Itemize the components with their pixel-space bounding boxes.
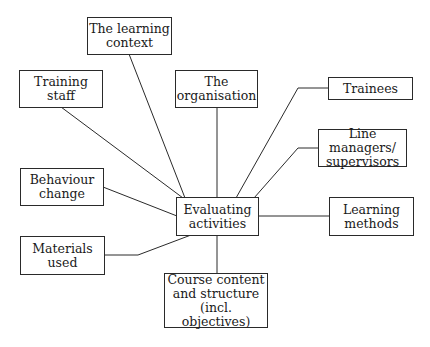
- node-label: Behaviour change: [30, 173, 95, 201]
- node-trainees: Trainees: [328, 77, 413, 100]
- node-materials-used: Materials used: [20, 236, 105, 275]
- node-learning-methods: Learning methods: [329, 197, 414, 236]
- node-line-managers: Line managers/ supervisors: [318, 129, 407, 167]
- edge-materials-used: [104, 235, 191, 255]
- node-course-content: Course content and structure (incl. obje…: [164, 273, 268, 328]
- node-label: The organisation: [177, 75, 256, 103]
- edge-behaviour-change: [103, 187, 177, 216]
- node-label: Trainees: [343, 82, 398, 96]
- node-label: Course content and structure (incl. obje…: [165, 273, 267, 329]
- node-training-staff: Training staff: [19, 70, 103, 108]
- node-evaluating-activities: Evaluating activities: [176, 197, 259, 236]
- node-label: Line managers/ supervisors: [319, 127, 406, 169]
- node-label: The learning context: [89, 22, 170, 50]
- node-label: Learning methods: [343, 203, 400, 231]
- node-organisation: The organisation: [175, 70, 258, 108]
- node-label: Training staff: [34, 75, 88, 103]
- node-label: Materials used: [32, 242, 93, 270]
- node-behaviour-change: Behaviour change: [20, 168, 104, 206]
- evaluation-diagram: The learning context Training staff The …: [0, 0, 430, 347]
- center-label: Evaluating activities: [183, 203, 251, 231]
- edge-line-managers: [254, 148, 318, 198]
- node-learning-context: The learning context: [87, 17, 172, 55]
